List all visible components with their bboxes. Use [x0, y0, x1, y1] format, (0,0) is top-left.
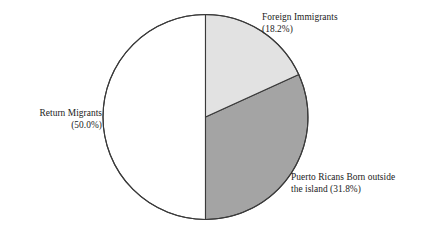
pie-slice-return-migrants[interactable] — [103, 15, 206, 220]
pie-chart-figure: Return Migrants (50.0%) Foreign Immigran… — [0, 0, 431, 233]
pie-label-return-migrants: Return Migrants (50.0%) — [8, 108, 102, 131]
pie-label-foreign-immigrants: Foreign Immigrants (18.2%) — [262, 12, 422, 35]
pie-label-puerto-ricans: Puerto Ricans Born outside the island (3… — [291, 172, 431, 195]
